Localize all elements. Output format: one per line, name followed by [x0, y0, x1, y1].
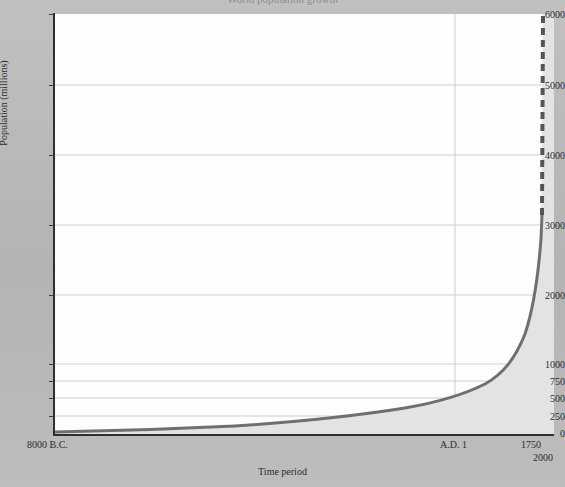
ytick-label-4000: 4000 [517, 151, 565, 161]
ytick-label-0: 0 [517, 429, 565, 439]
chart-figure: World population growth [0, 0, 565, 487]
xtick-label-1750: 1750 [521, 440, 541, 450]
gridlines-horizontal [55, 85, 554, 416]
xtick-label-2000: 2000 [533, 453, 553, 463]
y-axis-title: Population (millions) [0, 38, 9, 168]
population-area-fill [55, 14, 554, 434]
ytick-mark-750 [49, 381, 54, 382]
ytick-mark-500 [49, 398, 54, 399]
ytick-label-500: 500 [517, 394, 565, 404]
ytick-mark-1000 [49, 364, 54, 365]
chart-canvas [55, 14, 554, 435]
ytick-label-1000: 1000 [517, 360, 565, 370]
ytick-label-2000: 2000 [517, 291, 565, 301]
ytick-label-750: 750 [517, 377, 565, 387]
ytick-mark-2000 [49, 295, 54, 296]
ytick-mark-6000 [49, 14, 54, 15]
x-axis-line [53, 434, 554, 436]
xtick-label-ad1: A.D. 1 [440, 440, 467, 450]
ytick-mark-250 [49, 416, 54, 417]
ytick-label-5000: 5000 [517, 81, 565, 91]
x-axis-title: Time period [0, 466, 565, 477]
plot-area [55, 14, 554, 435]
chart-title: World population growth [0, 0, 565, 5]
ytick-mark-3000 [49, 225, 54, 226]
ytick-label-250: 250 [517, 412, 565, 422]
ytick-mark-5000 [49, 85, 54, 86]
ytick-mark-4000 [49, 155, 54, 156]
xtick-label-8000bc: 8000 B.C. [27, 440, 68, 450]
population-curve-dashed [542, 16, 543, 215]
ytick-label-3000: 3000 [517, 221, 565, 231]
ytick-label-6000: 6000 [517, 10, 565, 20]
